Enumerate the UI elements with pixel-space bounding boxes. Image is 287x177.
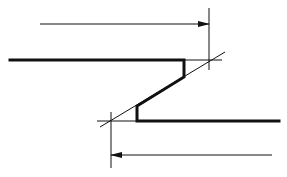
- offset-profile-diagram: [0, 0, 287, 177]
- offset-profile: [10, 60, 279, 121]
- dimension-lines: [40, 8, 272, 168]
- profile-outline: [10, 60, 279, 121]
